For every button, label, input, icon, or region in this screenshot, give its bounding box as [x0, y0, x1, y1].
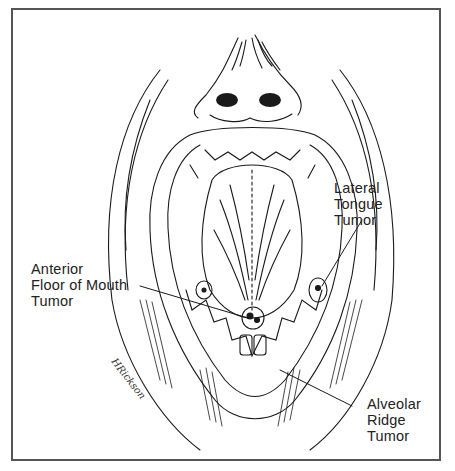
leader-alveolar-ridge: [280, 370, 352, 406]
tongue: [202, 165, 302, 318]
label-line: Anterior: [31, 261, 127, 277]
label-line: Floor of Mouth: [31, 277, 127, 293]
label-line: Tumor: [334, 212, 383, 228]
lower-teeth: [186, 290, 322, 356]
upper-teeth: [190, 150, 315, 178]
label-line: Lateral: [334, 180, 383, 196]
label-line: Tumor: [367, 428, 421, 444]
lips: [150, 128, 357, 419]
label-line: Tongue: [334, 196, 383, 212]
nose-drawing: [194, 35, 301, 122]
leader-anterior-floor: [140, 286, 248, 318]
label-line: Ridge: [367, 412, 421, 428]
label-alveolar-ridge-tumor: Alveolar Ridge Tumor: [367, 396, 421, 444]
label-lateral-tongue-tumor: Lateral Tongue Tumor: [334, 180, 383, 228]
label-anterior-floor-of-mouth-tumor: Anterior Floor of Mouth Tumor: [31, 261, 127, 309]
label-line: Tumor: [31, 293, 127, 309]
label-line: Alveolar: [367, 396, 421, 412]
